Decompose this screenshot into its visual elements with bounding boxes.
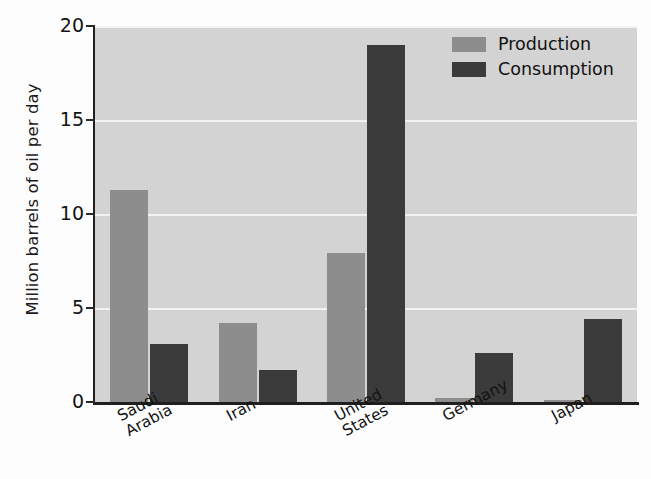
y-tick-mark-5: [86, 307, 95, 309]
bar-consumption-4[interactable]: [584, 319, 622, 402]
y-tick-label-5: 5: [44, 298, 84, 317]
y-tick-mark-10: [86, 213, 95, 215]
gridline-15: [95, 120, 637, 122]
legend-item-production[interactable]: Production: [452, 36, 614, 54]
legend-label-consumption: Consumption: [498, 61, 614, 79]
y-tick-label-10: 10: [44, 204, 84, 223]
chart-legend: Production Consumption: [452, 36, 614, 85]
legend-item-consumption[interactable]: Consumption: [452, 61, 614, 79]
gridline-10: [95, 214, 637, 216]
y-tick-label-0: 0: [44, 392, 84, 411]
chart-figure: Million barrels of oil per day 05101520 …: [0, 0, 651, 479]
y-tick-mark-20: [86, 25, 95, 27]
y-axis-ticks: 05101520: [40, 0, 84, 479]
bar-production-2[interactable]: [327, 253, 365, 402]
bar-consumption-1[interactable]: [259, 370, 297, 402]
bar-production-0[interactable]: [110, 190, 148, 402]
y-tick-label-15: 15: [44, 110, 84, 129]
y-tick-mark-0: [86, 401, 95, 403]
gridline-20: [95, 26, 637, 28]
legend-swatch-consumption-icon: [452, 62, 486, 77]
legend-swatch-production-icon: [452, 37, 486, 52]
y-tick-mark-15: [86, 119, 95, 121]
y-tick-label-20: 20: [44, 16, 84, 35]
bar-production-1[interactable]: [219, 323, 257, 402]
legend-label-production: Production: [498, 36, 591, 54]
y-axis-title: Million barrels of oil per day: [23, 0, 42, 400]
gridline-5: [95, 308, 637, 310]
bar-consumption-2[interactable]: [367, 45, 405, 402]
